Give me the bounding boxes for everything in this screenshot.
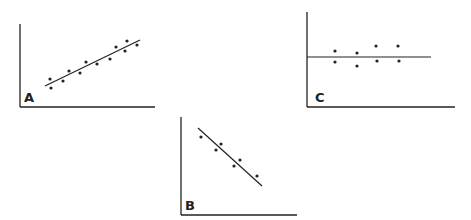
trend-line-b bbox=[198, 128, 262, 186]
chart-b-label: B bbox=[185, 199, 195, 212]
data-point bbox=[219, 142, 222, 145]
data-point bbox=[333, 60, 336, 63]
data-point bbox=[396, 44, 399, 47]
data-point bbox=[67, 69, 70, 72]
data-point bbox=[135, 43, 138, 46]
data-point bbox=[333, 49, 336, 52]
data-point bbox=[355, 51, 358, 54]
data-point bbox=[78, 71, 81, 74]
chart-c-label: C bbox=[315, 91, 325, 104]
data-point bbox=[238, 158, 241, 161]
data-point bbox=[374, 44, 377, 47]
data-point bbox=[199, 135, 202, 138]
data-point bbox=[375, 59, 378, 62]
data-point bbox=[232, 164, 235, 167]
chart-a-label: A bbox=[24, 91, 34, 104]
scatter-plots-canvas bbox=[0, 0, 471, 220]
scatter-plot-c bbox=[307, 12, 455, 107]
data-point bbox=[84, 60, 87, 63]
data-point bbox=[397, 59, 400, 62]
data-point bbox=[48, 77, 51, 80]
scatter-plot-a bbox=[20, 24, 155, 107]
trend-line-a bbox=[45, 40, 140, 86]
data-point bbox=[61, 79, 64, 82]
data-point bbox=[95, 62, 98, 65]
scatter-plot-b bbox=[181, 117, 297, 215]
data-point bbox=[125, 39, 128, 42]
data-point bbox=[355, 64, 358, 67]
data-point bbox=[123, 49, 126, 52]
data-point bbox=[214, 148, 217, 151]
data-point bbox=[108, 57, 111, 60]
data-point bbox=[255, 174, 258, 177]
data-point bbox=[49, 86, 52, 89]
data-point bbox=[114, 45, 117, 48]
